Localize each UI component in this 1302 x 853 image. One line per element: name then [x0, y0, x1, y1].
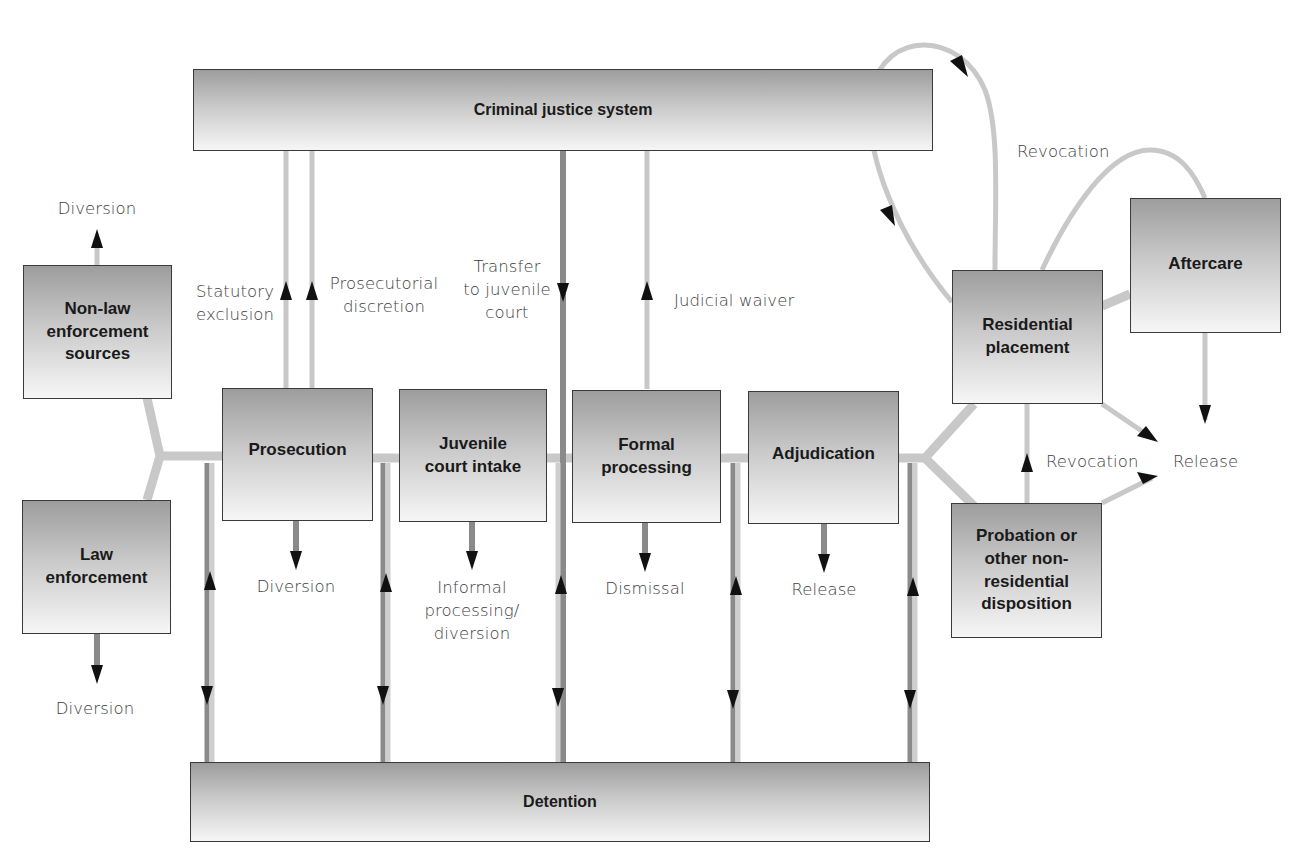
judicial-waiver-label: Judicial waiver: [674, 289, 814, 312]
prosecution-box: Prosecution: [222, 388, 373, 521]
arrow-up-icon: [91, 229, 103, 248]
juvenile-justice-flow-diagram: Criminal justice system Non-law enforcem…: [0, 0, 1302, 853]
aftercare-label: Aftercare: [1168, 253, 1243, 276]
criminal-justice-system-label: Criminal justice system: [474, 99, 653, 121]
prosecution-diversion-label: Diversion: [246, 575, 346, 598]
transfer-to-juvenile-court-label: Transfer to juvenile court: [462, 255, 552, 324]
revocation-mid-label: Revocation: [1046, 450, 1156, 473]
juvenile-court-intake-box: Juvenile court intake: [399, 389, 547, 522]
dismissal-label: Dismissal: [595, 577, 695, 600]
residential-placement-box: Residential placement: [952, 270, 1103, 404]
prosecutorial-discretion-label: Prosecutorial discretion: [326, 272, 442, 318]
formal-processing-box: Formal processing: [572, 390, 721, 523]
release-right-label: Release: [1173, 450, 1253, 473]
law-enforcement-box: Law enforcement: [22, 500, 171, 634]
adjudication-release-label: Release: [774, 578, 874, 601]
aftercare-box: Aftercare: [1130, 198, 1281, 333]
adjudication-box: Adjudication: [748, 391, 899, 524]
detention-label: Detention: [523, 791, 597, 813]
prosecution-label: Prosecution: [248, 439, 346, 462]
juvenile-court-intake-label: Juvenile court intake: [425, 433, 521, 479]
criminal-justice-system-box: Criminal justice system: [193, 69, 933, 151]
law-enforcement-label: Law enforcement: [45, 544, 147, 590]
informal-processing-label: Informal processing/ diversion: [420, 576, 524, 645]
formal-processing-label: Formal processing: [601, 434, 692, 480]
probation-label: Probation or other non- residential disp…: [976, 525, 1077, 617]
statutory-exclusion-label: Statutory exclusion: [196, 280, 286, 326]
revocation-top-label: Revocation: [1017, 140, 1127, 163]
adjudication-label: Adjudication: [772, 443, 875, 466]
non-law-enforcement-label: Non-law enforcement sources: [46, 298, 148, 367]
residential-placement-label: Residential placement: [982, 314, 1073, 360]
probation-box: Probation or other non- residential disp…: [951, 503, 1102, 638]
diversion-bottom-label: Diversion: [45, 697, 145, 720]
non-law-enforcement-box: Non-law enforcement sources: [23, 265, 172, 399]
detention-box: Detention: [190, 762, 930, 842]
diversion-top-label: Diversion: [47, 197, 147, 220]
